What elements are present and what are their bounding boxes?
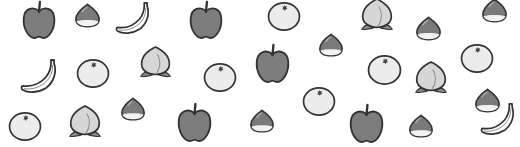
chestnut-icon xyxy=(249,109,275,133)
peach-icon xyxy=(137,45,174,80)
orange-icon xyxy=(203,62,237,92)
orange-icon xyxy=(76,58,110,88)
orange-icon xyxy=(460,43,494,73)
chestnut-icon xyxy=(481,0,508,23)
fruit-canvas: Scattered fruit illustration xyxy=(0,0,520,147)
chestnut-icon xyxy=(74,3,101,28)
apple-icon xyxy=(348,103,385,144)
apple-icon xyxy=(188,0,224,40)
apple-icon xyxy=(176,102,213,143)
apple-icon xyxy=(254,43,291,84)
chestnut-icon xyxy=(415,16,442,41)
orange-icon xyxy=(367,54,402,85)
chestnut-icon xyxy=(318,33,344,57)
apple-icon xyxy=(21,0,57,40)
banana-icon xyxy=(113,1,151,35)
chestnut-icon xyxy=(120,97,146,121)
orange-icon xyxy=(267,1,301,31)
orange-icon xyxy=(8,111,42,141)
banana-icon xyxy=(478,102,516,136)
orange-icon xyxy=(302,86,336,116)
peach-icon xyxy=(66,104,104,140)
peach-icon xyxy=(358,0,396,33)
banana-icon xyxy=(18,58,58,94)
chestnut-icon xyxy=(408,114,434,138)
peach-icon xyxy=(412,60,450,96)
